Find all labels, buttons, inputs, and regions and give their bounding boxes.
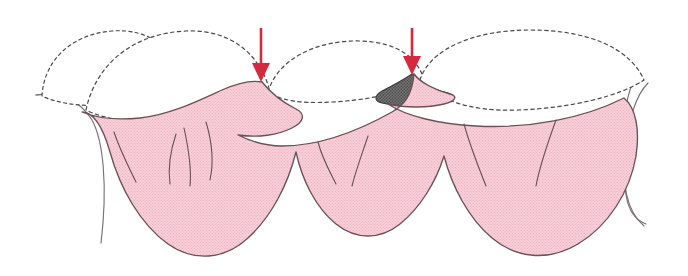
illustration-canvas	[0, 0, 688, 276]
dental-illustration-figure: Interdental black triangle defects at gi…	[0, 0, 688, 276]
